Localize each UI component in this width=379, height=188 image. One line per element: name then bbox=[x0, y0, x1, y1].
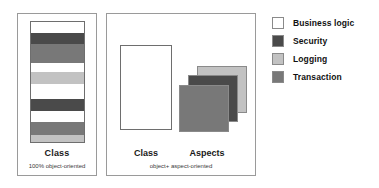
legend-swatch-icon bbox=[272, 71, 284, 83]
legend-swatch-icon bbox=[272, 35, 284, 47]
legend-item: Logging bbox=[272, 50, 377, 67]
legend-item-label: Security bbox=[293, 36, 327, 46]
aspect-card-stack bbox=[179, 66, 249, 134]
legend-item-label: Transaction bbox=[293, 72, 342, 82]
class-bar-stripe bbox=[31, 22, 84, 33]
legend-swatch-icon bbox=[272, 17, 284, 29]
aop-aspects-title: Aspects bbox=[167, 148, 247, 158]
class-bar-stripe bbox=[31, 135, 84, 142]
class-bar-stripe bbox=[31, 99, 84, 111]
legend-item-label: Logging bbox=[293, 54, 327, 64]
panel-object-oriented: Class 100% object-oriented bbox=[17, 13, 97, 176]
legend-item-label: Business logic bbox=[293, 18, 354, 28]
oo-caption: 100% object-oriented bbox=[18, 163, 96, 169]
legend-swatch-icon bbox=[272, 53, 284, 65]
class-bar-stripe bbox=[31, 63, 84, 73]
class-bar-stripe bbox=[31, 111, 84, 122]
aspect-card-transaction bbox=[179, 85, 229, 132]
legend-item: Security bbox=[272, 32, 377, 49]
class-bar-stripe bbox=[31, 84, 84, 98]
class-box-business-logic bbox=[120, 45, 172, 130]
aop-caption: object+ aspect-oriented bbox=[107, 163, 255, 169]
legend-item: Business logic bbox=[272, 14, 377, 31]
class-bar-stripe bbox=[31, 44, 84, 63]
legend-item: Transaction bbox=[272, 68, 377, 85]
class-bar-tangled-concerns bbox=[30, 21, 85, 143]
class-bar-stripe bbox=[31, 122, 84, 135]
class-bar-stripe bbox=[31, 72, 84, 84]
class-bar-stripe bbox=[31, 33, 84, 44]
panel-aspect-oriented: Class Aspects object+ aspect-oriented bbox=[106, 13, 256, 176]
legend: Business logicSecurityLoggingTransaction bbox=[272, 14, 377, 86]
aop-concept-diagram: Class 100% object-oriented Class Aspects… bbox=[0, 0, 379, 188]
oo-class-title: Class bbox=[18, 148, 96, 158]
